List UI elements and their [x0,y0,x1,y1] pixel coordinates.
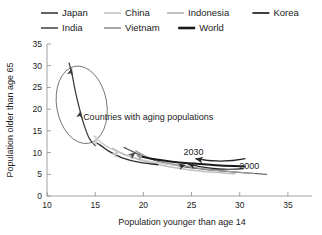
y-tick-label: 20 [33,104,43,114]
x-tick-label: 20 [139,200,149,210]
legend-label-world: World [199,22,224,33]
x-tick-label: 30 [235,200,245,210]
annotation-2000: 2000 [239,161,259,171]
legend-label-korea: Korea [273,7,299,18]
y-tick-label: 15 [33,126,43,136]
x-axis-title: Population younger than age 14 [118,217,246,227]
x-tick-label: 15 [90,200,100,210]
annotation-2030: 2030 [183,147,203,157]
annotation-countries-with-aging-populations: Countries with aging populations [83,112,214,122]
y-tick-label: 30 [33,61,43,71]
legend-label-japan: Japan [62,7,88,18]
population-aging-scatter-chart: JapanChinaIndonesiaKoreaIndiaVietnamWorl… [0,0,322,235]
x-tick-label: 10 [42,200,52,210]
legend-label-india: India [62,22,83,33]
y-tick-label: 10 [33,148,43,158]
x-tick-label: 35 [283,200,293,210]
x-tick-label: 25 [187,200,197,210]
chart-canvas: JapanChinaIndonesiaKoreaIndiaVietnamWorl… [0,0,322,235]
y-tick-label: 5 [37,169,42,179]
y-axis-title: Population older than age 65 [5,62,15,177]
legend-label-vietnam: Vietnam [125,22,160,33]
y-tick-label: 35 [33,39,43,49]
legend-label-indonesia: Indonesia [188,7,230,18]
y-tick-label: 25 [33,82,43,92]
legend-label-china: China [125,7,151,18]
